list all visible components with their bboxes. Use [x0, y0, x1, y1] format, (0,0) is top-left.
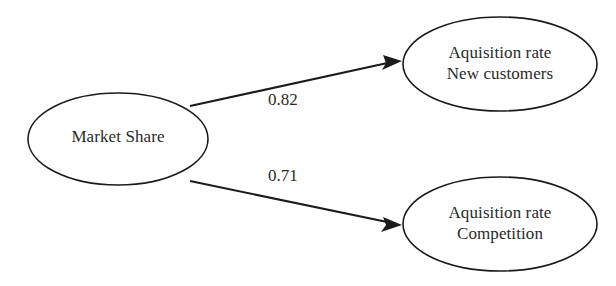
node-label-market-share: Market Share — [38, 126, 198, 147]
node-label-acquisition-competition: Aquisition rate Competition — [403, 202, 597, 244]
path-diagram: Market Share Aquisition rate New custome… — [0, 0, 616, 286]
node-label-acquisition-new-customers-line1: Aquisition rate — [403, 42, 597, 63]
edge-weight-competition: 0.71 — [268, 166, 298, 185]
node-label-acquisition-new-customers-line2: New customers — [403, 63, 597, 84]
node-label-acquisition-competition-line1: Aquisition rate — [403, 202, 597, 223]
node-label-market-share-line1: Market Share — [38, 126, 198, 147]
edge-market-share-to-competition — [190, 181, 402, 232]
node-label-acquisition-new-customers: Aquisition rate New customers — [403, 42, 597, 84]
node-label-acquisition-competition-line2: Competition — [403, 223, 597, 244]
edge-weight-new-customers: 0.82 — [268, 90, 298, 109]
arrowhead-icon-competition — [381, 217, 402, 232]
edge-line-competition — [190, 181, 392, 223]
